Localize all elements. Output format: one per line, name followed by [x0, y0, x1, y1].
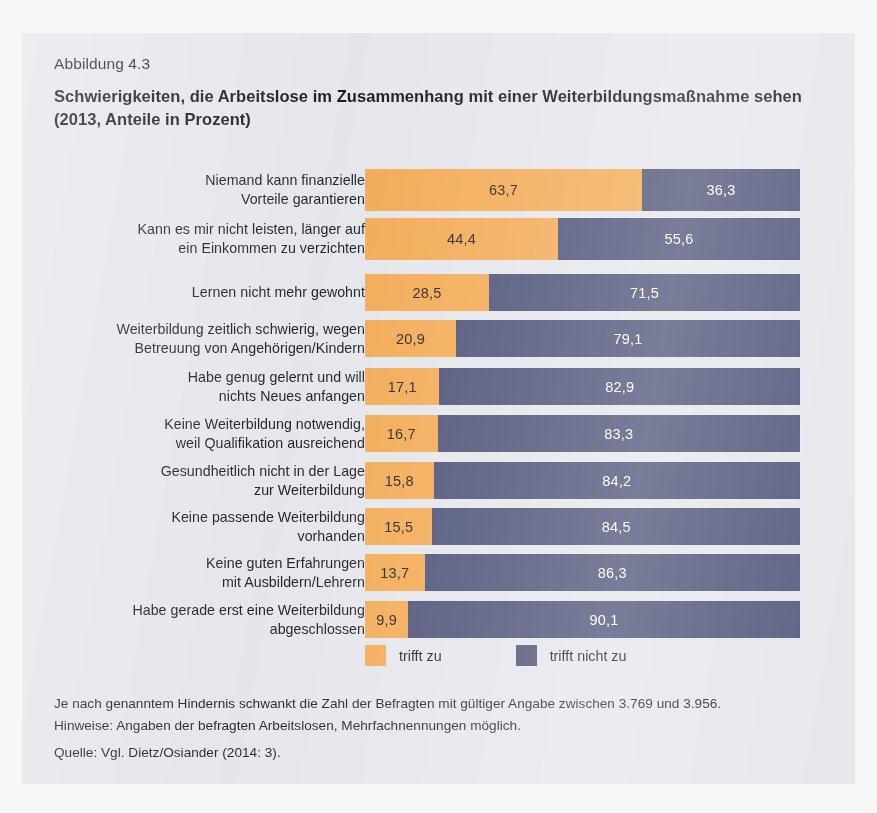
category-label-line: Niemand kann finanzielle — [35, 171, 365, 190]
bar-track: 16,783,3 — [365, 415, 800, 452]
chart-row: Habe genug gelernt und willnichts Neues … — [22, 368, 855, 405]
bar-segment-trifft-zu: 63,7 — [365, 169, 642, 211]
category-label-line: Habe genug gelernt und will — [35, 368, 365, 387]
bar-track: 15,884,2 — [365, 462, 800, 499]
note-line-2: Hinweise: Angaben der befragten Arbeitsl… — [54, 715, 834, 737]
bar-segment-trifft-nicht-zu: 84,5 — [432, 508, 800, 545]
category-label: Kann es mir nicht leisten, länger aufein… — [35, 220, 365, 257]
category-label: Habe genug gelernt und willnichts Neues … — [35, 368, 365, 405]
category-label-line: mit Ausbildern/Lehrern — [35, 573, 365, 592]
bar-track: 13,786,3 — [365, 554, 800, 591]
category-label: Habe gerade erst eine Weiterbildungabges… — [35, 601, 365, 638]
category-label-line: Keine guten Erfahrungen — [35, 554, 365, 573]
category-label: Keine Weiterbildung notwendig,weil Quali… — [35, 415, 365, 452]
bar-track: 17,182,9 — [365, 368, 800, 405]
category-label-line: Betreuung von Angehörigen/Kindern — [35, 339, 365, 358]
bar-segment-trifft-nicht-zu: 83,3 — [438, 415, 800, 452]
bar-segment-trifft-nicht-zu: 82,9 — [439, 368, 800, 405]
stacked-bar-chart: Niemand kann finanzielleVorteile garanti… — [22, 161, 855, 631]
legend-item: trifft zu — [365, 645, 442, 666]
legend-item: trifft nicht zu — [516, 645, 627, 666]
bar-track: 9,990,1 — [365, 601, 800, 638]
note-line-1: Je nach genanntem Hindernis schwankt die… — [54, 693, 834, 715]
bar-segment-trifft-zu: 20,9 — [365, 320, 456, 357]
bar-segment-trifft-zu: 28,5 — [365, 274, 489, 311]
category-label-line: nichts Neues anfangen — [35, 387, 365, 406]
bar-segment-trifft-zu: 16,7 — [365, 415, 438, 452]
category-label-line: Keine passende Weiterbildung — [35, 508, 365, 527]
category-label-line: zur Weiterbildung — [35, 481, 365, 500]
category-label-line: Gesundheitlich nicht in der Lage — [35, 462, 365, 481]
figure-source: Quelle: Vgl. Dietz/Osiander (2014: 3). — [54, 745, 281, 760]
chart-row: Keine passende Weiterbildungvorhanden15,… — [22, 508, 855, 545]
bar-segment-trifft-nicht-zu: 71,5 — [489, 274, 800, 311]
category-label-line: Lernen nicht mehr gewohnt — [35, 283, 365, 302]
legend-label: trifft zu — [399, 648, 442, 664]
legend-swatch-icon — [516, 645, 537, 666]
category-label: Niemand kann finanzielleVorteile garanti… — [35, 171, 365, 208]
bar-segment-trifft-zu: 15,5 — [365, 508, 432, 545]
chart-row: Niemand kann finanzielleVorteile garanti… — [22, 169, 855, 211]
category-label-line: ein Einkommen zu verzichten — [35, 239, 365, 258]
category-label-line: Weiterbildung zeitlich schwierig, wegen — [35, 320, 365, 339]
bar-segment-trifft-zu: 44,4 — [365, 218, 558, 260]
chart-row: Habe gerade erst eine Weiterbildungabges… — [22, 601, 855, 638]
bar-track: 15,584,5 — [365, 508, 800, 545]
legend-swatch-icon — [365, 645, 386, 666]
category-label-line: abgeschlossen — [35, 620, 365, 639]
chart-row: Keine Weiterbildung notwendig,weil Quali… — [22, 415, 855, 452]
bar-segment-trifft-nicht-zu: 79,1 — [456, 320, 800, 357]
bar-track: 28,571,5 — [365, 274, 800, 311]
category-label-line: weil Qualifikation ausreichend — [35, 434, 365, 453]
bar-track: 20,979,1 — [365, 320, 800, 357]
bar-segment-trifft-nicht-zu: 86,3 — [425, 554, 800, 591]
bar-segment-trifft-nicht-zu: 90,1 — [408, 601, 800, 638]
category-label: Lernen nicht mehr gewohnt — [35, 283, 365, 302]
chart-legend: trifft zutrifft nicht zu — [365, 645, 626, 666]
bar-track: 63,736,3 — [365, 169, 800, 211]
figure-notes: Je nach genanntem Hindernis schwankt die… — [54, 693, 834, 737]
bar-segment-trifft-nicht-zu: 36,3 — [642, 169, 800, 211]
category-label-line: Habe gerade erst eine Weiterbildung — [35, 601, 365, 620]
bar-segment-trifft-nicht-zu: 84,2 — [434, 462, 800, 499]
category-label: Weiterbildung zeitlich schwierig, wegenB… — [35, 320, 365, 357]
category-label-line: Kann es mir nicht leisten, länger auf — [35, 220, 365, 239]
chart-row: Kann es mir nicht leisten, länger aufein… — [22, 218, 855, 260]
bar-segment-trifft-zu: 9,9 — [365, 601, 408, 638]
category-label: Gesundheitlich nicht in der Lagezur Weit… — [35, 462, 365, 499]
category-label-line: vorhanden — [35, 527, 365, 546]
category-label-line: Keine Weiterbildung notwendig, — [35, 415, 365, 434]
category-label: Keine guten Erfahrungenmit Ausbildern/Le… — [35, 554, 365, 591]
figure-title: Schwierigkeiten, die Arbeitslose im Zusa… — [54, 85, 814, 132]
chart-row: Weiterbildung zeitlich schwierig, wegenB… — [22, 320, 855, 357]
legend-label: trifft nicht zu — [550, 648, 627, 664]
bar-segment-trifft-zu: 13,7 — [365, 554, 425, 591]
chart-row: Gesundheitlich nicht in der Lagezur Weit… — [22, 462, 855, 499]
bar-segment-trifft-zu: 17,1 — [365, 368, 439, 405]
figure-number: Abbildung 4.3 — [54, 55, 150, 73]
category-label: Keine passende Weiterbildungvorhanden — [35, 508, 365, 545]
page-background: Abbildung 4.3 Schwierigkeiten, die Arbei… — [0, 0, 877, 813]
bar-track: 44,455,6 — [365, 218, 800, 260]
category-label-line: Vorteile garantieren — [35, 190, 365, 209]
chart-row: Lernen nicht mehr gewohnt28,571,5 — [22, 274, 855, 311]
figure-panel: Abbildung 4.3 Schwierigkeiten, die Arbei… — [22, 33, 855, 784]
bar-segment-trifft-zu: 15,8 — [365, 462, 434, 499]
chart-row: Keine guten Erfahrungenmit Ausbildern/Le… — [22, 554, 855, 591]
bar-segment-trifft-nicht-zu: 55,6 — [558, 218, 800, 260]
